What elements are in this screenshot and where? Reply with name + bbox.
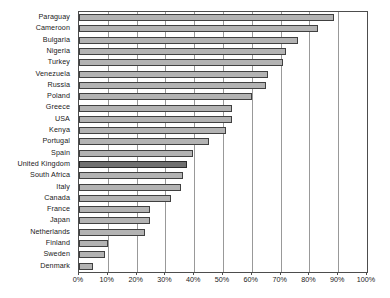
bar-highlighted[interactable] xyxy=(79,161,187,168)
category-label: Turkey xyxy=(0,56,74,67)
x-tick-label: 10% xyxy=(100,276,114,283)
category-label: Greece xyxy=(0,101,74,112)
bar-row xyxy=(79,102,367,113)
bar-row xyxy=(79,91,367,102)
bar-row xyxy=(79,159,367,170)
bar[interactable] xyxy=(79,263,93,270)
bar-chart: ParaguayCameroonBulgariaNigeriaTurkeyVen… xyxy=(0,0,390,298)
bar-row xyxy=(79,12,367,23)
bar-row xyxy=(79,80,367,91)
bar[interactable] xyxy=(79,240,108,247)
bar-row xyxy=(79,35,367,46)
x-tick-label: 30% xyxy=(157,276,171,283)
bar-row xyxy=(79,238,367,249)
bar-row xyxy=(79,114,367,125)
plot-area xyxy=(78,11,368,273)
x-tick-label: 90% xyxy=(330,276,344,283)
bar-row xyxy=(79,68,367,79)
category-label: Venezuela xyxy=(0,67,74,78)
bar[interactable] xyxy=(79,14,334,21)
category-label: France xyxy=(0,203,74,214)
x-tick-label: 70% xyxy=(272,276,286,283)
bar[interactable] xyxy=(79,150,193,157)
category-label: Japan xyxy=(0,214,74,225)
bar[interactable] xyxy=(79,48,286,55)
bar[interactable] xyxy=(79,71,268,78)
bar[interactable] xyxy=(79,206,150,213)
category-label: Paraguay xyxy=(0,11,74,22)
bar-row xyxy=(79,57,367,68)
bar-row xyxy=(79,181,367,192)
bar-row xyxy=(79,125,367,136)
category-label: Cameroon xyxy=(0,22,74,33)
bar[interactable] xyxy=(79,93,252,100)
bar-row xyxy=(79,249,367,260)
bar-row xyxy=(79,148,367,159)
category-label: Spain xyxy=(0,147,74,158)
category-label: United Kingdom xyxy=(0,158,74,169)
bar-row xyxy=(79,204,367,215)
bar-row xyxy=(79,23,367,34)
category-label: Netherlands xyxy=(0,226,74,237)
bar[interactable] xyxy=(79,138,209,145)
x-tick-label: 20% xyxy=(128,276,142,283)
category-label: Bulgaria xyxy=(0,34,74,45)
bar-row xyxy=(79,170,367,181)
bar[interactable] xyxy=(79,184,181,191)
category-label: Portugal xyxy=(0,135,74,146)
bar[interactable] xyxy=(79,217,150,224)
x-axis-tick-labels: 0%10%20%30%40%50%60%70%80%90%100% xyxy=(78,276,366,290)
bar[interactable] xyxy=(79,116,232,123)
x-tick-label: 40% xyxy=(186,276,200,283)
bar-row xyxy=(79,215,367,226)
category-label: Nigeria xyxy=(0,45,74,56)
bar[interactable] xyxy=(79,25,318,32)
x-tick-label: 50% xyxy=(215,276,229,283)
category-label: Kenya xyxy=(0,124,74,135)
bar-series xyxy=(79,12,367,272)
bar[interactable] xyxy=(79,105,232,112)
bar-row xyxy=(79,227,367,238)
bar-row xyxy=(79,136,367,147)
bar[interactable] xyxy=(79,82,266,89)
category-label: Russia xyxy=(0,79,74,90)
bar[interactable] xyxy=(79,127,226,134)
category-label: Sweden xyxy=(0,248,74,259)
bar[interactable] xyxy=(79,37,298,44)
bar-row xyxy=(79,193,367,204)
x-tick-label: 80% xyxy=(301,276,315,283)
category-label: USA xyxy=(0,113,74,124)
category-label: Poland xyxy=(0,90,74,101)
category-label: South Africa xyxy=(0,169,74,180)
bar[interactable] xyxy=(79,59,283,66)
bar[interactable] xyxy=(79,251,105,258)
category-label: Canada xyxy=(0,192,74,203)
category-label: Finland xyxy=(0,237,74,248)
category-label: Italy xyxy=(0,180,74,191)
bar[interactable] xyxy=(79,229,145,236)
x-tick-label: 0% xyxy=(73,276,83,283)
x-tick-label: 100% xyxy=(357,276,375,283)
bar[interactable] xyxy=(79,172,183,179)
category-label: Denmark xyxy=(0,260,74,271)
x-tick-label: 60% xyxy=(244,276,258,283)
bar-row xyxy=(79,46,367,57)
bar[interactable] xyxy=(79,195,171,202)
bar-row xyxy=(79,261,367,272)
category-label-column: ParaguayCameroonBulgariaNigeriaTurkeyVen… xyxy=(0,11,74,271)
